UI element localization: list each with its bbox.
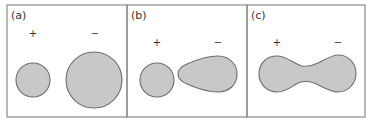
panel-b-positive-droplet [140, 63, 174, 97]
panel-a-plus-label: + [29, 28, 37, 39]
panel-a-positive-droplet [16, 63, 50, 97]
panel-a-minus-label: − [91, 28, 99, 39]
panel-a: (a) + − [7, 5, 127, 117]
panel-b-plus-label: + [153, 37, 161, 48]
panel-c: (c) + − [247, 5, 365, 117]
panel-b: (b) + − [127, 5, 247, 117]
panel-c-plus-label: + [273, 37, 281, 48]
panel-a-label: (a) [11, 9, 26, 22]
panel-b-label: (b) [131, 9, 147, 22]
panel-c-minus-label: − [334, 37, 342, 48]
panel-c-label: (c) [251, 9, 266, 22]
panel-c-coalesced-dumbbell [259, 55, 356, 92]
panel-b-negative-teardrop [178, 56, 237, 92]
panel-a-negative-droplet [66, 52, 122, 108]
panel-b-minus-label: − [214, 37, 222, 48]
coalescence-diagram: (a) + − (b) + − (c) + − [0, 0, 371, 127]
